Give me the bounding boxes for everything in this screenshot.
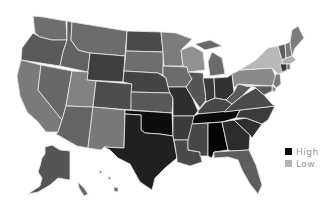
us-choropleth-map [0,0,336,201]
state-KS[interactable] [131,92,173,113]
legend-label-high: High [296,147,319,157]
state-MI-up[interactable] [195,40,222,50]
state-ME[interactable] [290,26,304,56]
state-MI[interactable] [208,52,225,76]
state-NM[interactable] [88,107,125,150]
legend-label-low: Low [296,159,315,169]
state-HI[interactable] [78,170,118,196]
legend-item-low: Low [285,158,319,169]
state-WY[interactable] [87,53,125,82]
legend-swatch-low [285,160,292,167]
state-RI[interactable] [287,64,290,70]
state-ND[interactable] [126,31,163,52]
legend-swatch-high [285,148,292,155]
state-AK[interactable] [28,145,70,194]
map-legend: High Low [285,146,319,170]
state-FL[interactable] [214,150,262,194]
state-CO[interactable] [93,81,132,110]
legend-item-high: High [285,146,319,157]
